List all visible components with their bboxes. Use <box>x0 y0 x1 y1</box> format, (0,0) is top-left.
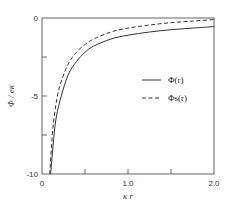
x-axis-ticks <box>85 169 171 174</box>
y-tick-label-0: 0 <box>34 14 39 23</box>
chart-canvas: 0 -5 -10 0 1.0 2.0 κ r Φ / eκ Φ(r) Φs(r) <box>0 0 230 207</box>
x-tick-label-2: 2.0 <box>208 179 220 188</box>
legend-label-phi: Φ(r) <box>168 75 184 85</box>
y-axis-ticks <box>42 57 47 135</box>
y-tick-label-minus10: -10 <box>26 170 38 179</box>
series-phi-line <box>51 27 214 174</box>
legend: Φ(r) Φs(r) <box>142 75 187 103</box>
plot-frame <box>42 18 214 174</box>
x-tick-label-0: 0 <box>40 179 45 188</box>
x-axis-label: κ r <box>123 191 134 201</box>
x-tick-label-1: 1.0 <box>122 179 134 188</box>
series-phi-s-line <box>50 20 214 174</box>
legend-label-phi-s: Φs(r) <box>168 93 187 103</box>
y-tick-label-minus5: -5 <box>31 92 39 101</box>
y-axis-label: Φ / eκ <box>6 84 16 107</box>
